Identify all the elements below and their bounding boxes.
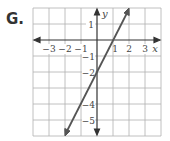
x-axis-right-arrow-icon bbox=[154, 38, 160, 43]
svg-text:2: 2 bbox=[126, 44, 132, 54]
svg-text:−4: −4 bbox=[82, 100, 96, 110]
coordinate-plane: −3 −2 −1 1 2 3 x 1 −1 −2 −4 −5 y bbox=[0, 0, 170, 141]
y-axis-down-arrow-icon bbox=[95, 129, 100, 135]
svg-text:1: 1 bbox=[112, 44, 118, 54]
y-axis-up-arrow-icon bbox=[95, 9, 100, 15]
line-arrow-up-icon bbox=[124, 8, 129, 16]
svg-text:1: 1 bbox=[88, 20, 94, 30]
svg-text:−5: −5 bbox=[82, 116, 96, 126]
svg-text:x: x bbox=[152, 43, 158, 54]
svg-text:−1: −1 bbox=[82, 52, 95, 62]
svg-text:−2: −2 bbox=[58, 44, 71, 54]
svg-text:−3: −3 bbox=[42, 44, 56, 54]
x-axis-left-arrow-icon bbox=[34, 38, 40, 43]
x-tick-labels: −3 −2 −1 1 2 3 x bbox=[38, 43, 158, 54]
svg-text:3: 3 bbox=[142, 44, 148, 54]
y-tick-labels: 1 −1 −2 −4 −5 y bbox=[82, 8, 108, 126]
svg-text:−2: −2 bbox=[82, 68, 95, 78]
line-arrow-down-icon bbox=[65, 129, 70, 137]
svg-text:y: y bbox=[101, 8, 108, 19]
